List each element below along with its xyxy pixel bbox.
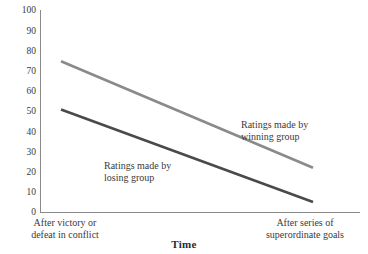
x-axis-title: Time — [0, 238, 368, 250]
plot-area — [0, 0, 368, 254]
series-label-winning-line2: winning group — [241, 131, 308, 143]
series-label-winning: Ratings made by winning group — [241, 119, 308, 142]
series-label-losing-line2: losing group — [104, 172, 171, 184]
x-category-right: After series of superordinate goals — [244, 217, 366, 240]
x-category-left: After victory or defeat in conflict — [6, 217, 124, 240]
series-label-winning-line1: Ratings made by — [241, 119, 308, 131]
series-label-losing: Ratings made by losing group — [104, 160, 171, 183]
x-category-right-line1: After series of — [244, 217, 366, 229]
x-category-left-line1: After victory or — [6, 217, 124, 229]
series-line-winning — [61, 61, 313, 168]
line-chart: 100 90 80 70 60 50 40 30 20 10 0 Ratings… — [0, 0, 368, 254]
series-label-losing-line1: Ratings made by — [104, 160, 171, 172]
